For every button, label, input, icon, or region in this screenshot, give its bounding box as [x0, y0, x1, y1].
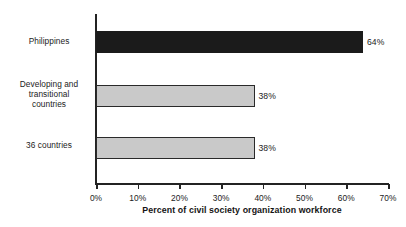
- bar-value-philippines: 64%: [367, 37, 384, 47]
- category-label-line: Philippines: [6, 36, 92, 46]
- category-label-line: countries: [6, 99, 92, 109]
- category-label-36-countries: 36 countries: [6, 140, 92, 150]
- x-axis-tick-label: 20%: [171, 193, 188, 203]
- bar-developing-and-transitional-countries: [96, 85, 255, 107]
- category-label-line: transitional: [6, 89, 92, 99]
- bar-value-36-countries: 38%: [259, 143, 276, 153]
- x-axis-tick-mark: [138, 184, 140, 189]
- x-axis-tick-mark: [179, 184, 181, 189]
- bar-philippines: [96, 31, 363, 53]
- x-axis-tick-label: 50%: [296, 193, 313, 203]
- x-axis-tick-label: 0%: [90, 193, 102, 203]
- x-axis-tick-mark: [96, 184, 98, 189]
- x-axis-tick-mark: [263, 184, 265, 189]
- x-axis-tick-mark: [305, 184, 307, 189]
- x-axis-title: Percent of civil society organization wo…: [96, 205, 388, 215]
- category-label-line: 36 countries: [6, 140, 92, 150]
- x-axis-tick-label: 40%: [254, 193, 271, 203]
- category-label-line: Developing and: [6, 79, 92, 89]
- x-axis-tick-label: 70%: [380, 193, 397, 203]
- x-axis-tick-label: 30%: [213, 193, 230, 203]
- x-axis-tick-label: 60%: [338, 193, 355, 203]
- x-axis-tick-mark: [346, 184, 348, 189]
- x-axis-tick-mark: [388, 184, 390, 189]
- bar-36-countries: [96, 137, 255, 159]
- x-axis-tick-label: 10%: [129, 193, 146, 203]
- plot-area: 64% 38% 38% 0%10%20%30%40%50%60%70%: [96, 14, 388, 184]
- category-label-developing-and-transitional-countries: Developing and transitional countries: [6, 79, 92, 110]
- bar-value-developing-and-transitional-countries: 38%: [259, 91, 276, 101]
- category-label-philippines: Philippines: [6, 36, 92, 46]
- bar-chart: Philippines Developing and transitional …: [0, 0, 406, 227]
- x-axis-tick-mark: [221, 184, 223, 189]
